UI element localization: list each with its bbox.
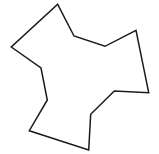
irregular-polygon-outline xyxy=(11,4,148,150)
polygon-diagram xyxy=(0,0,159,154)
